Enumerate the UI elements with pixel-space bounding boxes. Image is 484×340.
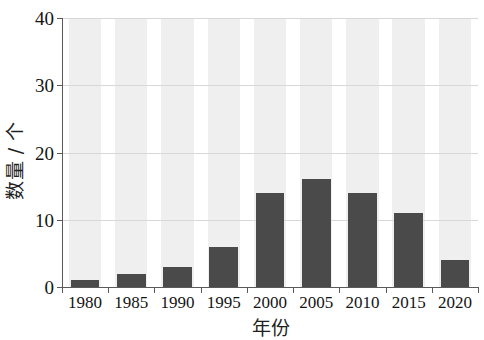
bar[interactable] [256,193,285,287]
x-axis-tick-label: 2000 [253,292,287,313]
bar[interactable] [71,280,100,287]
y-axis-tick-mark [57,18,62,19]
x-axis-tick-label: 1985 [114,292,148,313]
x-axis-tick-label: 2020 [438,292,472,313]
x-axis-tick-label: 1980 [68,292,102,313]
y-axis-tick-mark [57,153,62,154]
y-axis-tick-labels: 010203040 [20,0,58,300]
x-axis-tick-label: 1990 [161,292,195,313]
x-axis-tick-label: 1995 [207,292,241,313]
bar[interactable] [209,247,238,287]
bar-series-layer [62,18,478,287]
y-axis-tick-label: 0 [45,278,55,297]
y-axis-tick-label: 40 [35,9,54,28]
plot-area [62,18,478,287]
y-axis-tick-label: 10 [35,210,54,229]
bar[interactable] [348,193,377,287]
y-axis-tick-mark [57,220,62,221]
bar[interactable] [117,274,146,287]
bar[interactable] [302,179,331,287]
y-axis-line [62,18,63,288]
bar[interactable] [394,213,423,287]
y-axis-tick-mark [57,85,62,86]
bar[interactable] [441,260,470,287]
y-axis-tick-label: 20 [35,143,54,162]
x-axis-tick-label: 2005 [299,292,333,313]
y-axis-tick-marks [57,18,62,288]
x-axis-title: 年份 [62,313,480,340]
x-axis-tick-label: 2010 [345,292,379,313]
bar[interactable] [163,267,192,287]
x-axis-tick-label: 2015 [392,292,426,313]
y-axis-tick-label: 30 [35,76,54,95]
